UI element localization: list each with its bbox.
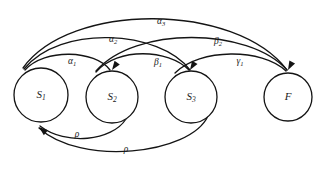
edge-s1-s3-alpha2 [24, 38, 190, 70]
edge-label-alpha2: α2 [109, 34, 118, 45]
edge-label-rho-s3-s1: ρ [123, 144, 129, 154]
node-labels-group: S1 S2 S3 F [36, 88, 291, 104]
arrowhead-into-s2 [109, 61, 119, 72]
edge-label-beta2: β2 [213, 36, 223, 47]
node-label-f: F [284, 90, 292, 102]
edge-label-rho-s2-s1: ρ [74, 129, 80, 139]
diagram-canvas: S1 S2 S3 F α1 α2 α3 β1 [0, 0, 330, 170]
state-transition-diagram: S1 S2 S3 F α1 α2 α3 β1 [0, 0, 330, 170]
edge-label-beta1: β1 [153, 57, 162, 68]
edge-label-alpha1: α1 [68, 56, 76, 67]
nodes-group [14, 68, 312, 123]
edge-label-alpha3: α3 [157, 16, 166, 27]
edge-label-gamma1: γ1 [237, 56, 244, 67]
